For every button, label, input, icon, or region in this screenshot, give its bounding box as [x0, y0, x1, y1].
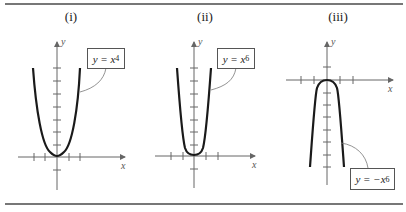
equation-lhs-iii: y = −x	[355, 173, 385, 185]
equation-label-i: y = x4	[87, 48, 125, 69]
equation-lhs-ii: y = x	[223, 53, 246, 65]
y-axis-label-ii: y	[198, 36, 202, 47]
equation-exp-ii: 6	[245, 54, 249, 63]
leader-line-i	[80, 68, 106, 92]
leader-line-iii	[341, 143, 368, 168]
equation-exp-iii: 6	[386, 175, 390, 184]
graph-iii	[286, 42, 393, 185]
leader-line-ii	[211, 68, 236, 90]
graphs-canvas	[0, 0, 406, 212]
x-axis-label-i: x	[121, 160, 125, 171]
x-axis-label-ii: x	[252, 159, 256, 170]
equation-lhs-i: y = x	[93, 53, 116, 65]
equation-label-ii: y = x6	[217, 48, 255, 69]
equation-label-iii: y = −x6	[350, 168, 395, 190]
y-axis-label-iii: y	[331, 36, 335, 47]
x-axis-label-iii: x	[388, 83, 392, 94]
y-axis-label-i: y	[61, 36, 65, 47]
equation-exp-i: 4	[115, 54, 119, 63]
